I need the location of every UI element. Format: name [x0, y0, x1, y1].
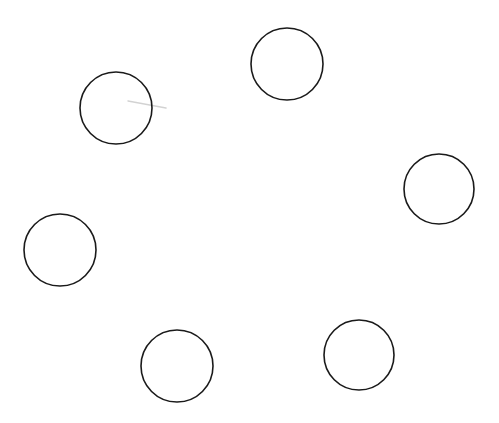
circle-3 [404, 154, 474, 224]
circle-2 [251, 28, 323, 100]
circle-1 [80, 72, 152, 144]
circle-5 [141, 330, 213, 402]
faint-stroke [128, 101, 166, 108]
circle-4 [24, 214, 96, 286]
circle-6 [324, 320, 394, 390]
circles-diagram [0, 0, 499, 423]
diagram-canvas [0, 0, 499, 423]
